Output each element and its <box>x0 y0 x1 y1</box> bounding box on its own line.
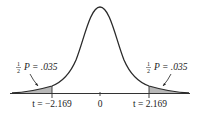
tick-label-center: 0 <box>98 99 103 109</box>
left-half-num: 1 <box>17 61 20 67</box>
right-half-num: 1 <box>147 61 150 67</box>
right-p-label: P = .035 <box>153 62 188 72</box>
left-half-den: 2 <box>17 68 20 74</box>
tick-label-left: t = −2.169 <box>32 99 72 109</box>
left-p-label: P = .035 <box>23 62 58 72</box>
left-arrowhead <box>35 83 38 86</box>
right-half-den: 2 <box>147 68 150 74</box>
right-arrowhead <box>163 83 166 86</box>
t-distribution-diagram: 1 2 P = .035 1 2 P = .035 t = −2.169 0 t… <box>0 0 199 119</box>
tick-label-right: t = 2.169 <box>133 99 167 109</box>
density-curve <box>12 7 189 93</box>
